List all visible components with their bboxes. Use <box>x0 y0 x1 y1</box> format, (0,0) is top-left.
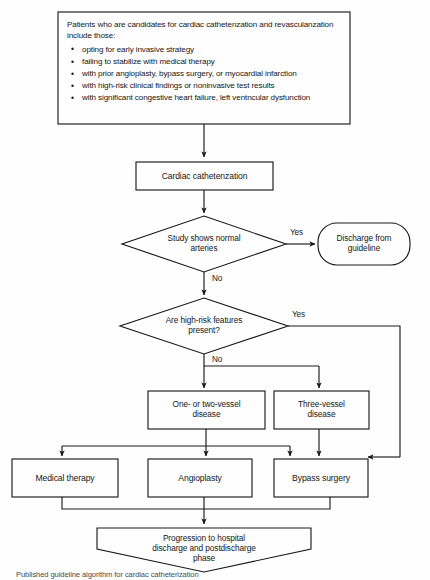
one-two-vessel-disease-label: One- or two-vessel disease <box>148 393 265 427</box>
criteria-item: •with significant congestive heart failu… <box>67 92 341 103</box>
criteria-item-label: with significant congestive heart failur… <box>82 93 310 102</box>
bullet-glyph-icon: • <box>71 56 74 68</box>
decision-normal-arteries-label: Study shows normal arteries <box>134 228 274 260</box>
criteria-box: Patients who are candidates for cardiac … <box>58 12 350 124</box>
three-vessel-disease-label: Three-vessel disease <box>274 393 369 427</box>
criteria-item-label: with high-risk clinical findings or noni… <box>82 81 275 90</box>
flowchart-page: Patients who are candidates for cardiac … <box>0 0 430 580</box>
edge-label-highrisk-no: No <box>212 355 222 364</box>
bullet-glyph-icon: • <box>71 92 74 104</box>
criteria-item: •failing to stabilize with medical thera… <box>67 56 341 67</box>
edge-label-normal-yes: Yes <box>290 228 303 237</box>
figure-caption: Published guideline algorithm for cardia… <box>16 570 420 580</box>
decision-high-risk-label: Are high-risk features present? <box>132 310 276 342</box>
criteria-item-label: failing to stabilize with medical therap… <box>82 57 215 66</box>
bullet-glyph-icon: • <box>71 68 74 80</box>
edge-bypass-to-merge <box>204 497 330 509</box>
discharge-label: Discharge from guideline <box>320 228 408 260</box>
progression-label: Progression to hospital discharge and po… <box>104 530 304 568</box>
criteria-item-label: opting for early invasive strategy <box>82 45 194 54</box>
edge-label-normal-no: No <box>212 274 222 283</box>
cardiac-catheterization-label: Cardiac cathetenzation <box>136 162 273 190</box>
criteria-intro: Patients who are candidates for cardiac … <box>67 19 341 42</box>
angioplasty-label: Angioplasty <box>148 459 252 497</box>
edge-medical-to-merge <box>62 497 204 509</box>
criteria-item: •with high-risk clinical findings or non… <box>67 80 341 91</box>
edge-label-highrisk-yes: Yes <box>292 310 305 319</box>
bullet-glyph-icon: • <box>71 43 74 55</box>
criteria-list: •opting for early invasive strategy •fai… <box>67 44 341 104</box>
bypass-surgery-label: Bypass surgery <box>274 459 368 497</box>
bullet-glyph-icon: • <box>71 80 74 92</box>
medical-therapy-label: Medical therapy <box>12 459 118 497</box>
criteria-item-label: with prior angioplasty, bypass surgery, … <box>82 69 297 78</box>
criteria-item: •opting for early invasive strategy <box>67 44 341 55</box>
criteria-item: •with prior angioplasty, bypass surgery,… <box>67 68 341 79</box>
